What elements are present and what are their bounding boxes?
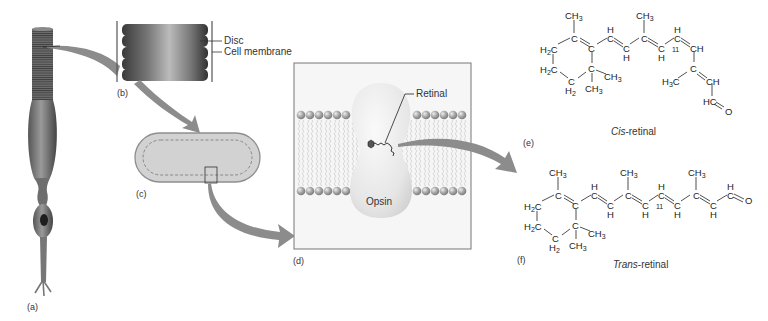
arrow-c-to-d bbox=[208, 183, 295, 248]
panel-label-e: (e) bbox=[523, 138, 534, 148]
opsin-callout: Opsin bbox=[366, 196, 392, 207]
panel-label-b: (b) bbox=[117, 88, 128, 98]
cis-retinal-structure bbox=[553, 20, 724, 109]
arrow-b-to-c bbox=[134, 80, 200, 133]
cell-membrane-callout: Cell membrane bbox=[224, 46, 292, 57]
arrow-a-to-b bbox=[47, 46, 120, 76]
rod-cell bbox=[28, 27, 57, 296]
disc-stack bbox=[117, 21, 222, 82]
panel-label-f: (f) bbox=[517, 255, 526, 265]
trans-retinal-caption: Trans-retinal bbox=[613, 259, 668, 270]
cis-retinal-caption: Cis-retinal bbox=[611, 126, 656, 137]
diagram-graphics bbox=[0, 0, 768, 321]
panel-label-d: (d) bbox=[293, 256, 304, 266]
panel-label-a: (a) bbox=[27, 302, 38, 312]
retinal-callout: Retinal bbox=[416, 88, 447, 99]
single-disc bbox=[135, 133, 260, 183]
disc-callout: Disc bbox=[224, 35, 243, 46]
panel-label-c: (c) bbox=[136, 189, 147, 199]
